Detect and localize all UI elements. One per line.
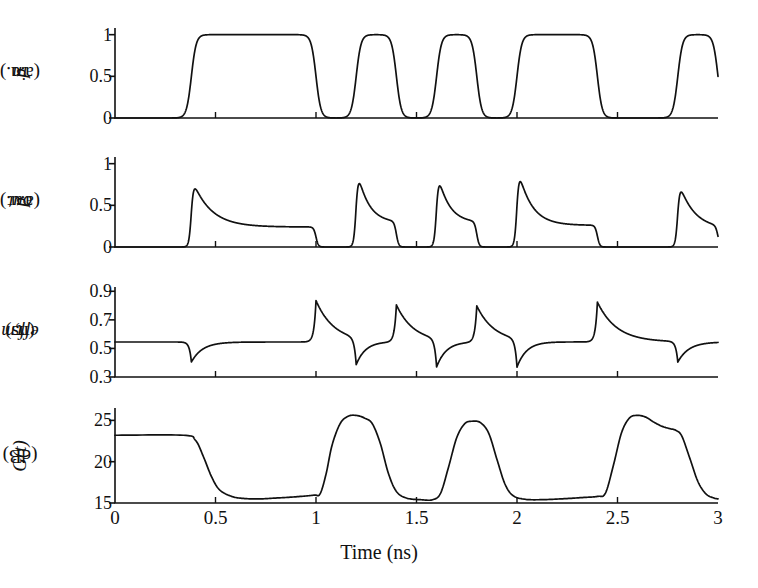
p-out-ytick-2: 1	[103, 153, 112, 174]
panel-tau-eff-plot	[0, 0, 758, 588]
gain-ytick-1: 20	[94, 451, 112, 472]
panel-p-out-yticklabels: 00.51	[32, 157, 112, 247]
gain-trace	[115, 415, 718, 500]
figure-canvas: pin (a.u.) 00.51 pout (a.u.) 00.51 τeff,…	[0, 0, 758, 588]
panel-p-out: pout (a.u.) 00.51	[0, 0, 758, 588]
panel-gain-plot	[0, 0, 758, 588]
x-axis-ticklabels: 00.511.522.53	[0, 507, 758, 535]
panel-p-in-plot	[0, 0, 758, 588]
tau-eff-axis-spine	[115, 287, 718, 377]
p-out-ytick-0: 0	[103, 237, 112, 258]
tau-eff-trace	[115, 301, 718, 368]
p-in-trace	[115, 35, 718, 118]
p-in-ytick-1: 0.5	[90, 66, 113, 87]
p-in-ytick-2: 1	[103, 24, 112, 45]
panel-p-in: pin (a.u.) 00.51	[0, 0, 758, 588]
panel-p-out-ylabel: pout (a.u.)	[0, 157, 40, 247]
tau-eff-ytick-1: 0.5	[90, 338, 113, 359]
panel-tau-eff-yticklabels: 0.30.50.70.9	[32, 287, 112, 377]
panel-p-out-plot	[0, 0, 758, 588]
x-ticklabel-1: 0.5	[204, 507, 228, 529]
gain-axis-spine	[115, 408, 718, 503]
panel-p-in-yticklabels: 00.51	[32, 28, 112, 118]
tau-eff-ytick-2: 0.7	[90, 309, 113, 330]
x-ticklabel-6: 3	[713, 507, 723, 529]
panel-p-in-ylabel: pin (a.u.)	[0, 28, 40, 118]
x-ticklabel-2: 1	[311, 507, 321, 529]
p-in-ytick-0: 0	[103, 108, 112, 129]
p-out-ytick-1: 0.5	[90, 195, 113, 216]
panel-tau-eff-ylabel: τeff,m (ns)	[0, 287, 40, 377]
x-ticklabel-5: 2.5	[606, 507, 630, 529]
x-ticklabel-4: 2	[512, 507, 522, 529]
x-ticklabel-3: 1.5	[405, 507, 429, 529]
x-ticklabel-0: 0	[110, 507, 120, 529]
p-out-axis-spine	[115, 157, 718, 247]
panel-gain-ylabel: G(t) (dB)	[0, 408, 40, 503]
x-axis-title: Time (ns)	[0, 541, 758, 564]
panel-gain: G(t) (dB) 152025	[0, 0, 758, 588]
gain-ytick-2: 25	[94, 410, 112, 431]
p-out-trace	[115, 182, 718, 247]
p-in-axis-spine	[115, 28, 718, 118]
panel-gain-yticklabels: 152025	[32, 408, 112, 503]
panel-tau-eff: τeff,m (ns) 0.30.50.70.9	[0, 0, 758, 588]
tau-eff-ytick-0: 0.3	[90, 367, 113, 388]
tau-eff-ytick-3: 0.9	[90, 281, 113, 302]
